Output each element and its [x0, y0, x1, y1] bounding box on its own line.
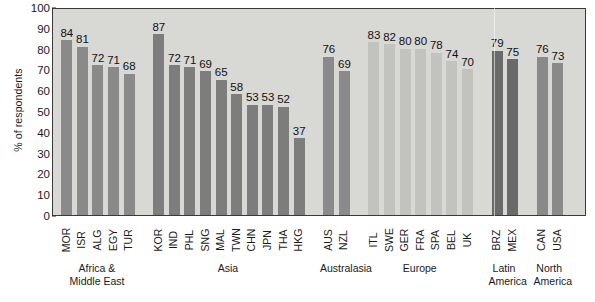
x-axis-tick-label: BRZ [490, 224, 502, 256]
y-axis-tick-label: 90 [14, 23, 50, 35]
bar: 82 [384, 44, 395, 215]
bar-slot: 80 [413, 9, 429, 215]
bar: 53 [262, 105, 273, 215]
x-axis-tick-label: IND [167, 224, 179, 256]
bar-value-label: 70 [461, 57, 474, 69]
x-axis-tick-label: CHN [245, 224, 257, 256]
x-label-slot: THA [275, 218, 291, 262]
bar-slot: 75 [505, 9, 521, 215]
bar-value-label: 80 [414, 36, 427, 48]
bar-value-label: 52 [277, 94, 290, 106]
x-label-slot: PHL [181, 218, 197, 262]
bar-value-label: 82 [383, 32, 396, 44]
y-axis-tick-label: 10 [14, 189, 50, 201]
x-axis-tick-label: SPA [429, 224, 441, 256]
x-axis-tick-label: TUR [122, 224, 134, 256]
x-axis-tick-label: MOR [60, 224, 72, 256]
bar: 78 [431, 53, 442, 215]
bar-slot: 58 [229, 9, 245, 215]
x-axis-tick-label: TWN [230, 224, 242, 256]
bars-container: 8481727168877271696558535352377669838280… [53, 9, 585, 215]
x-axis-tick-label: UK [461, 224, 473, 256]
bar-slot: 53 [245, 9, 261, 215]
bar-slot: 70 [460, 9, 476, 215]
bar-group: 7975 [489, 9, 520, 215]
x-axis-tick-label: BEL [445, 224, 457, 256]
x-axis-tick-label: SNG [199, 224, 211, 256]
x-label-slot: HKG [290, 218, 306, 262]
bar-value-label: 76 [536, 44, 549, 56]
bar: 80 [415, 49, 426, 215]
bar-slot: 84 [59, 9, 75, 215]
bar-value-label: 58 [230, 82, 243, 94]
x-label-slot: CAN [534, 218, 550, 262]
bar-slot: 83 [366, 9, 382, 215]
bar-slot: 72 [90, 9, 106, 215]
bar-slot: 76 [535, 9, 551, 215]
bar-value-label: 76 [322, 44, 335, 56]
y-axis-tick-label: 0 [14, 210, 50, 222]
bar: 53 [247, 105, 258, 215]
x-label-slot: ITL [365, 218, 381, 262]
bar: 87 [153, 34, 164, 215]
x-label-slot: USA [549, 218, 565, 262]
bar-slot: 74 [444, 9, 460, 215]
x-label-slot: CHN [244, 218, 260, 262]
bar-slot: 53 [260, 9, 276, 215]
bar-value-label: 74 [446, 49, 459, 61]
x-axis-tick-label: THA [277, 224, 289, 256]
x-axis-tick-label: JPN [261, 224, 273, 256]
bar-value-label: 71 [107, 55, 120, 67]
bar-value-label: 65 [215, 67, 228, 79]
x-axis-labels: MORISRALGEGYTURKORINDPHLSNGMALTWNCHNJPNT… [52, 218, 586, 262]
bar-value-label: 79 [491, 38, 504, 50]
x-label-slot: SWE [381, 218, 397, 262]
bar: 73 [552, 63, 563, 215]
bar-group: 7673 [535, 9, 566, 215]
x-axis-tick-label: MEX [506, 224, 518, 256]
bar-slot: 37 [291, 9, 307, 215]
bar: 69 [339, 71, 350, 215]
x-label-slot: KOR [150, 218, 166, 262]
bar-slot: 82 [382, 9, 398, 215]
bar: 76 [537, 57, 548, 215]
bar-chart: % of respondents 0102030405060708090100 … [0, 0, 595, 302]
bar-value-label: 81 [76, 34, 89, 46]
x-label-slot: JPN [259, 218, 275, 262]
bar-group: 7669 [321, 9, 352, 215]
y-axis-tick-label: 30 [14, 148, 50, 160]
x-axis-tick-label: ALG [91, 224, 103, 256]
x-label-slot: MAL [212, 218, 228, 262]
x-axis-tick-label: MAL [214, 224, 226, 256]
bar: 71 [108, 67, 119, 215]
x-label-slot: ISR [74, 218, 90, 262]
x-label-slot: IND [166, 218, 182, 262]
x-axis-tick-label: PHL [183, 224, 195, 256]
x-axis-tick-label: GER [398, 224, 410, 256]
bar: 84 [61, 40, 72, 215]
x-axis-tick-label: ITL [367, 224, 379, 256]
y-axis-tick-label: 100 [14, 2, 50, 14]
bar-value-label: 72 [168, 53, 181, 65]
x-label-slot: FRA [412, 218, 428, 262]
y-axis-tick-label: 70 [14, 64, 50, 76]
bar: 75 [507, 59, 518, 215]
bar-group: 8481727168 [59, 9, 137, 215]
bar-value-label: 53 [262, 92, 275, 104]
bar-slot: 65 [213, 9, 229, 215]
x-label-group: BRZMEX [488, 218, 519, 262]
bar-value-label: 78 [430, 40, 443, 52]
x-axis-tick-label: FRA [414, 224, 426, 256]
bar: 74 [446, 61, 457, 215]
x-label-slot: MOR [58, 218, 74, 262]
x-label-slot: GER [396, 218, 412, 262]
bar-value-label: 87 [152, 22, 165, 34]
x-label-slot: MEX [504, 218, 520, 262]
x-axis-tick-label: HKG [292, 224, 304, 256]
region-label: Australasia [320, 262, 351, 292]
bar: 72 [169, 65, 180, 215]
bar-slot: 79 [489, 9, 505, 215]
bar-slot: 71 [106, 9, 122, 215]
bar: 79 [492, 51, 503, 215]
x-label-slot: EGY [105, 218, 121, 262]
